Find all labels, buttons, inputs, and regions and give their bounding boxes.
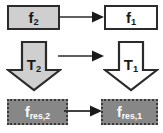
node-f2-label: f2	[28, 10, 38, 25]
node-fres1-label: fres,1	[117, 105, 142, 119]
diagram-canvas: f2 f1 T2 T1 fres,2	[0, 0, 163, 133]
node-f1[interactable]: f1	[104, 5, 158, 30]
arrow-fres2-to-fres1	[64, 104, 104, 118]
node-t2[interactable]: T2	[6, 40, 62, 92]
node-fres2[interactable]: fres,2	[7, 99, 68, 125]
node-t1[interactable]: T1	[103, 40, 159, 92]
arrow-f2-to-f1	[58, 10, 106, 24]
node-f2[interactable]: f2	[7, 5, 60, 30]
arrow-t2-to-t1	[58, 49, 106, 63]
node-f1-label: f1	[126, 10, 136, 25]
node-fres2-label: fres,2	[25, 105, 50, 119]
node-fres1[interactable]: fres,1	[101, 99, 158, 125]
node-t1-label: T1	[103, 57, 159, 72]
node-t2-label: T2	[6, 57, 62, 72]
